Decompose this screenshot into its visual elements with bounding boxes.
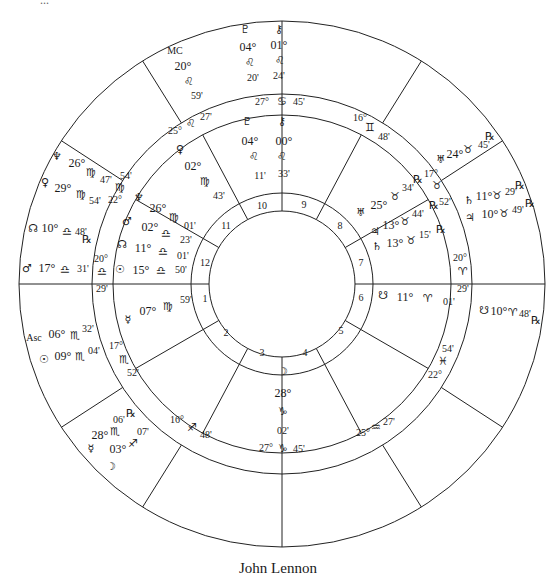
cusp-label: 27° <box>259 443 273 453</box>
natal-planet-label: 28° <box>275 387 292 399</box>
natal-planet-label: 11° <box>397 291 413 303</box>
natal-planet-label-glyph-icon: ☿ <box>125 314 132 326</box>
natal-planet-label-glyph-icon: ♀ <box>176 144 184 156</box>
natal-planet-label-glyph-icon: ☋ <box>378 290 388 302</box>
house-number: 6 <box>359 292 364 303</box>
natal-planet-label: 01' <box>184 221 196 231</box>
transit-planet-label-glyph-icon: ♉ <box>492 190 502 202</box>
cusp-label: 54' <box>442 344 454 354</box>
transit-planet-label-glyph-icon: ♂ <box>22 263 32 275</box>
cusp-label: 27' <box>200 112 212 122</box>
house-number: 1 <box>203 293 208 304</box>
transit-planet-label-glyph-icon: ☋ <box>479 305 489 317</box>
natal-planet-label-glyph-icon: ♄ <box>372 241 382 253</box>
natal-planet-label: 13° <box>383 219 400 231</box>
transit-planet-label-glyph-icon: ♎ <box>60 264 70 276</box>
transit-planet-label-glyph-icon: ♌ <box>245 57 255 69</box>
chart-caption: John Lennon <box>0 560 556 577</box>
transit-planet-label: 59' <box>191 91 203 101</box>
transit-planet-label: 32' <box>82 324 94 334</box>
cusp-label-glyph-icon: ♑ <box>278 443 288 455</box>
house-number: 12 <box>200 257 210 268</box>
transit-planet-label: 04° <box>240 41 257 53</box>
natal-planet-label-glyph-icon: ☽ <box>278 366 288 378</box>
transit-planet-label-glyph-icon: ♉ <box>463 144 473 156</box>
transit-planet-label-glyph-icon: ♍ <box>86 167 96 179</box>
natal-planet-label: 01' <box>177 251 189 261</box>
cusp-label: 45' <box>293 444 305 454</box>
natal-planet-label-glyph-icon: ♇ <box>242 116 252 128</box>
transit-planet-label: 48' <box>519 309 531 319</box>
natal-planet-label-glyph-icon: ♍ <box>169 212 179 224</box>
natal-planet-label: 33' <box>278 169 290 179</box>
natal-planet-label-glyph-icon: ♅ <box>356 207 366 219</box>
transit-planet-label-glyph-icon: ♃ <box>465 212 475 224</box>
outer-cusp-line <box>383 61 422 123</box>
natal-planet-label-glyph-icon: ℞ <box>436 224 446 236</box>
cusp-label: 48' <box>378 132 390 142</box>
transit-planet-label-glyph-icon: ℞ <box>126 408 136 420</box>
cusp-label: 20° <box>453 253 467 263</box>
transit-planet-label: 31' <box>77 264 89 274</box>
clipped-header-text: ... <box>40 0 49 8</box>
cusp-label-glyph-icon: ♉ <box>432 180 442 192</box>
natal-planet-label: 01' <box>443 297 455 307</box>
transit-planet-label: 28° <box>92 429 109 441</box>
transit-planet-label-glyph-icon: ♏ <box>75 351 85 363</box>
natal-planet-label-glyph-icon: ♉ <box>400 216 410 228</box>
cusp-label: 20° <box>94 254 108 264</box>
cusp-label-glyph-icon: ♒ <box>371 422 381 434</box>
cusp-label: 29' <box>457 284 469 294</box>
natal-planet-label: 13° <box>387 237 404 249</box>
house-number: 11 <box>221 220 231 231</box>
transit-planet-label: 03° <box>110 443 127 455</box>
natal-planet-label: 15° <box>133 264 150 276</box>
cusp-label-glyph-icon: ♈ <box>458 266 468 278</box>
transit-planet-label-glyph-icon: ♌ <box>184 76 194 88</box>
natal-planet-label-glyph-icon: ℞ <box>429 200 439 212</box>
outer-cusp-line <box>383 445 422 507</box>
natal-planet-label: 02' <box>277 426 289 436</box>
natal-planet-label-glyph-icon: ♍ <box>200 176 210 188</box>
cusp-label-glyph-icon: ♐ <box>187 422 197 434</box>
natal-planet-label-glyph-icon: ℞ <box>413 174 423 186</box>
house-number: 4 <box>303 347 308 358</box>
natal-planet-label-glyph-icon: ♈ <box>423 293 433 305</box>
natal-planet-label: 59' <box>180 295 192 305</box>
transit-planet-label: 09° <box>55 350 72 362</box>
cusp-label: 22° <box>428 370 442 380</box>
house-cusp-line <box>136 321 219 369</box>
natal-planet-label: 04° <box>242 135 259 147</box>
transit-planet-label-glyph-icon: ♉ <box>499 208 509 220</box>
transit-planet-label: 11° <box>476 190 492 202</box>
house-number: 8 <box>338 220 343 231</box>
transit-planet-label: 47' <box>100 175 112 185</box>
natal-planet-label: 07° <box>140 305 157 317</box>
transit-planet-label: 01° <box>271 39 288 51</box>
cusp-label: 52' <box>439 197 451 207</box>
house-cusp-line <box>203 348 248 433</box>
house-number: 5 <box>339 325 344 336</box>
natal-planet-label-glyph-icon: ♂ <box>122 216 132 228</box>
transit-planet-label-glyph-icon: ⚷ <box>275 24 283 36</box>
transit-planet-label: 10° <box>42 222 59 234</box>
cusp-label-glyph-icon: ♋ <box>277 96 287 108</box>
transit-planet-label: 49' <box>512 205 524 215</box>
transit-planet-label-glyph-icon: ℞ <box>515 180 525 192</box>
transit-planet-label: Asc <box>26 333 42 343</box>
natal-planet-label: 00° <box>276 135 293 147</box>
cusp-label: 29' <box>96 284 108 294</box>
transit-planet-label-glyph-icon: ☉ <box>39 354 49 366</box>
cusp-label-glyph-icon: ♊ <box>365 122 375 134</box>
transit-planet-label-glyph-icon: ♆ <box>52 151 62 163</box>
natal-planet-label-glyph-icon: ♌ <box>277 151 287 163</box>
transit-planet-label-glyph-icon: ♇ <box>240 24 250 36</box>
cusp-label: 22° <box>108 195 122 205</box>
cusp-label: 25° <box>168 126 182 136</box>
cusp-label-glyph-icon: ♎ <box>97 266 107 278</box>
house-number: 2 <box>224 327 229 338</box>
house-number: 3 <box>260 347 265 358</box>
house-number: 7 <box>359 257 364 268</box>
cusp-label: 27' <box>383 417 395 427</box>
cusp-label: 54' <box>120 171 132 181</box>
